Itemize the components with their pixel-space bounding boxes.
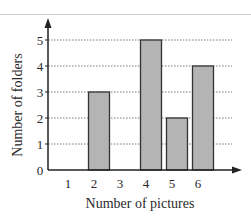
y-tick-label: 0 xyxy=(37,163,44,178)
y-tick-label: 3 xyxy=(37,85,44,100)
x-axis-arrow-icon xyxy=(232,167,242,174)
y-tick-label: 4 xyxy=(37,59,44,74)
x-tick-labels: 123456 xyxy=(65,176,202,191)
x-tick-label: 3 xyxy=(117,176,124,191)
y-axis-title: Number of folders xyxy=(10,53,25,156)
bar-5 xyxy=(167,118,188,170)
y-tick-label: 5 xyxy=(37,33,44,48)
bars xyxy=(89,40,214,170)
x-tick-label: 6 xyxy=(195,176,202,191)
x-tick-label: 4 xyxy=(143,176,150,191)
y-tick-labels: 012345 xyxy=(37,33,44,178)
y-tick-label: 1 xyxy=(37,137,44,152)
bar-chart: 012345 123456 Number of pictures Number … xyxy=(0,0,251,219)
bar-4 xyxy=(141,40,162,170)
x-tick-label: 1 xyxy=(65,176,72,191)
bar-6 xyxy=(193,66,214,170)
x-axis-title: Number of pictures xyxy=(86,196,195,211)
bar-2 xyxy=(89,92,110,170)
y-axis-arrow-icon xyxy=(45,18,52,28)
x-tick-label: 5 xyxy=(169,176,176,191)
y-tick-label: 2 xyxy=(37,111,44,126)
x-tick-label: 2 xyxy=(91,176,98,191)
